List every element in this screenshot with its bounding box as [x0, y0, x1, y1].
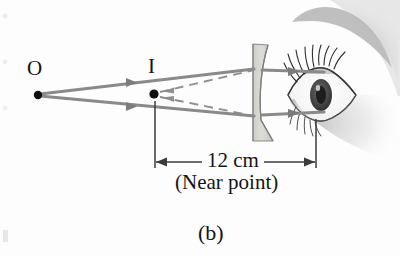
upper-ray-incident — [40, 69, 254, 94]
image-point-dot — [149, 89, 158, 98]
scan-edge-artifacts — [3, 14, 8, 242]
diagram-canvas — [0, 0, 400, 256]
object-point-label: O — [27, 58, 42, 79]
distance-label: 12 cm — [202, 150, 264, 171]
panel-label: (b) — [198, 222, 224, 244]
eye-illustration — [284, 0, 400, 162]
near-point-caption: (Near point) — [175, 172, 278, 193]
image-point-label: I — [148, 56, 155, 77]
virtual-ray-arrowheads — [163, 88, 174, 103]
optics-ray-diagram-figure: O I 12 cm (Near point) (b) — [0, 0, 400, 256]
light-rays — [40, 69, 324, 116]
diverging-lens — [253, 44, 273, 141]
lower-ray-incident — [40, 96, 254, 116]
object-point-dot — [34, 91, 42, 99]
